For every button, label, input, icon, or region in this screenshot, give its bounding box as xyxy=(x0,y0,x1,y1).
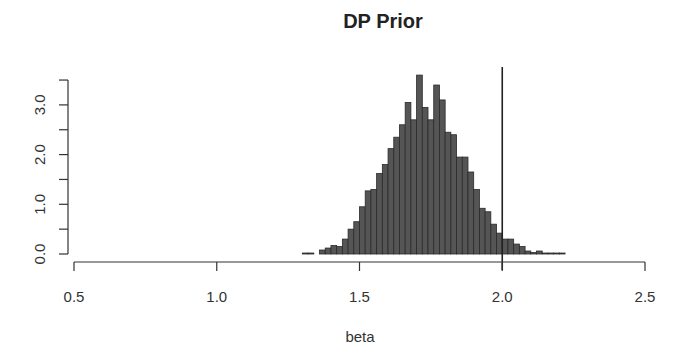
y-tick-label: 2.0 xyxy=(31,144,48,165)
x-tick-label: 1.5 xyxy=(349,288,370,305)
y-tick-label: 1.0 xyxy=(31,194,48,215)
histogram-bar xyxy=(474,189,480,254)
histogram-bar xyxy=(365,191,371,254)
x-tick-label: 2.5 xyxy=(635,288,656,305)
histogram-bar xyxy=(468,172,474,254)
histogram-bar xyxy=(337,247,343,254)
x-axis-label: beta xyxy=(345,328,375,345)
histogram-bar xyxy=(434,85,440,254)
histogram-bar xyxy=(405,102,411,254)
histogram-bar xyxy=(417,75,423,254)
histogram-bar xyxy=(525,251,531,254)
histogram-bar xyxy=(325,248,331,254)
histogram-bar xyxy=(348,229,354,254)
histogram-bar xyxy=(399,125,405,254)
x-tick-label: 1.0 xyxy=(206,288,227,305)
histogram-bar xyxy=(502,239,508,254)
y-tick-label: 3.0 xyxy=(31,94,48,115)
x-axis: 0.51.01.52.02.5 xyxy=(64,262,656,305)
histogram-bars xyxy=(302,75,565,254)
y-tick-label: 0.0 xyxy=(31,244,48,265)
chart-title: DP Prior xyxy=(343,10,423,32)
histogram-bar xyxy=(388,149,394,254)
histogram-bar xyxy=(548,253,554,254)
y-axis: 0.01.02.03.0 xyxy=(31,80,68,264)
histogram-bar xyxy=(479,208,485,254)
histogram-chart: DP Prior 0.01.02.03.0 0.51.01.52.02.5 be… xyxy=(0,0,689,361)
histogram-bar xyxy=(554,253,560,254)
histogram-bar xyxy=(382,165,388,254)
histogram-bar xyxy=(360,207,366,254)
histogram-bar xyxy=(308,253,314,254)
histogram-bar xyxy=(371,189,377,254)
histogram-bar xyxy=(377,173,383,254)
histogram-bar xyxy=(422,107,428,254)
histogram-bar xyxy=(354,222,360,254)
histogram-bar xyxy=(542,253,548,254)
histogram-bar xyxy=(428,120,434,254)
x-tick-label: 0.5 xyxy=(64,288,85,305)
histogram-bar xyxy=(531,253,537,254)
histogram-bar xyxy=(411,120,417,254)
histogram-bar xyxy=(302,253,308,254)
histogram-bar xyxy=(320,250,326,254)
histogram-bar xyxy=(559,253,565,254)
histogram-bar xyxy=(394,137,400,254)
histogram-bar xyxy=(457,157,463,254)
histogram-bar xyxy=(537,251,543,254)
histogram-bar xyxy=(491,224,497,254)
histogram-bar xyxy=(485,212,491,254)
histogram-bar xyxy=(497,233,503,254)
histogram-bar xyxy=(342,239,348,254)
histogram-bar xyxy=(462,157,468,254)
histogram-bar xyxy=(445,132,451,254)
histogram-bar xyxy=(451,135,457,254)
histogram-bar xyxy=(331,246,337,254)
x-tick-label: 2.0 xyxy=(492,288,513,305)
histogram-bar xyxy=(439,100,445,254)
histogram-bar xyxy=(514,244,520,254)
histogram-bar xyxy=(508,239,514,254)
histogram-bar xyxy=(519,247,525,254)
